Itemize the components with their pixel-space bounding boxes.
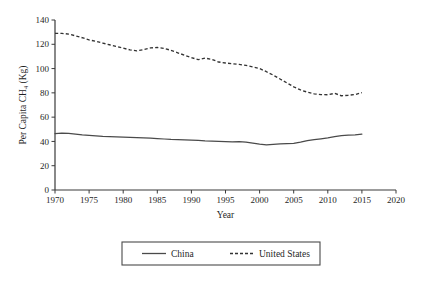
y-tick-label: 100 bbox=[36, 64, 50, 74]
series-line-united-states bbox=[55, 33, 362, 95]
y-tick-label: 20 bbox=[40, 161, 50, 171]
y-tick-label: 0 bbox=[45, 185, 50, 195]
x-axis-title: Year bbox=[217, 210, 235, 220]
x-tick-label: 2020 bbox=[387, 195, 406, 205]
y-tick-label: 80 bbox=[40, 88, 50, 98]
x-tick-label: 2000 bbox=[251, 195, 270, 205]
x-tick-label: 2005 bbox=[285, 195, 304, 205]
x-tick-label: 1970 bbox=[46, 195, 65, 205]
x-axis-group: 1970197519801985199019952000200520102015… bbox=[46, 190, 406, 205]
x-tick-label: 1990 bbox=[182, 195, 201, 205]
y-tick-label: 40 bbox=[40, 137, 50, 147]
chart-legend: ChinaUnited States bbox=[122, 242, 320, 265]
x-tick-label: 1975 bbox=[80, 195, 99, 205]
legend-label-china: China bbox=[171, 249, 194, 259]
legend-label-united-states: United States bbox=[259, 249, 310, 259]
series-line-china bbox=[55, 133, 362, 145]
x-tick-label: 2015 bbox=[353, 195, 372, 205]
y-axis-title: Per Capita CH₄ (Kg) bbox=[18, 65, 29, 144]
chart-container: 020406080100120140 197019751980198519901… bbox=[0, 0, 430, 284]
x-axis-ticks: 1970197519801985199019952000200520102015… bbox=[46, 190, 406, 205]
x-tick-label: 1985 bbox=[148, 195, 167, 205]
y-axis-group: 020406080100120140 bbox=[36, 15, 56, 195]
y-tick-label: 120 bbox=[36, 39, 50, 49]
line-chart: 020406080100120140 197019751980198519901… bbox=[0, 0, 430, 284]
y-tick-label: 60 bbox=[40, 112, 50, 122]
x-tick-label: 2010 bbox=[319, 195, 338, 205]
x-tick-label: 1980 bbox=[114, 195, 133, 205]
y-tick-label: 140 bbox=[36, 15, 50, 25]
y-axis-ticks: 020406080100120140 bbox=[36, 15, 56, 195]
data-series-layer bbox=[55, 33, 362, 144]
x-tick-label: 1995 bbox=[217, 195, 236, 205]
